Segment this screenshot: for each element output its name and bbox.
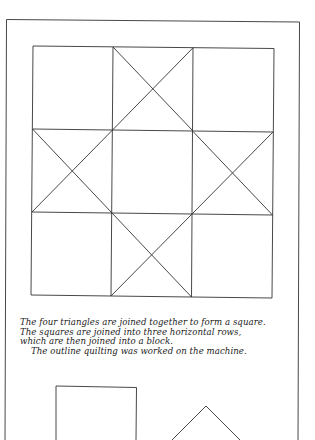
- crossed-cell-top: [113, 47, 194, 131]
- outer-frame: [5, 20, 300, 440]
- quilt-grid: [31, 46, 274, 298]
- caption-line: The outline quilting was worked on the m…: [20, 347, 305, 357]
- quilt-block-diagram: [0, 0, 315, 440]
- caption: The four triangles are joined together t…: [20, 318, 305, 356]
- template-square: [56, 386, 137, 440]
- crossed-cell-left: [32, 129, 113, 213]
- document-page: The four triangles are joined together t…: [0, 0, 315, 440]
- template-triangle: [172, 406, 240, 440]
- crossed-cell-right: [192, 132, 273, 216]
- crossed-cell-bottom: [111, 213, 192, 297]
